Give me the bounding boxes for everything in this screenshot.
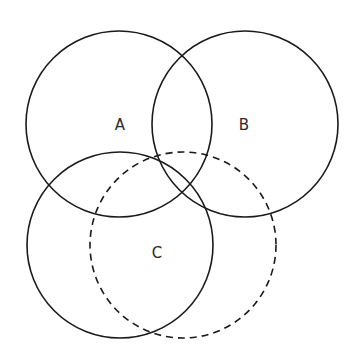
label-a: A [115, 116, 126, 134]
label-c: C [152, 244, 162, 262]
venn-diagram: A B C [0, 0, 362, 358]
circle-lower-left [27, 152, 213, 338]
label-b: B [239, 116, 249, 134]
circle-c-dashed [90, 152, 276, 338]
